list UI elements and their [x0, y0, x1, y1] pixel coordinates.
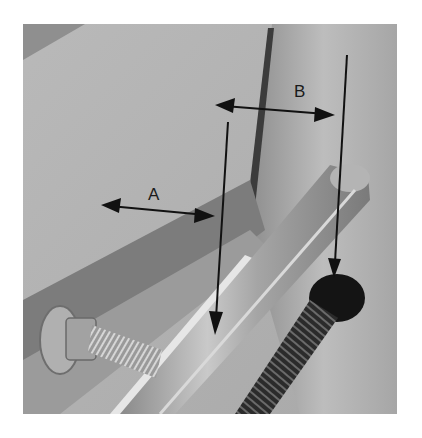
- label-b: B: [294, 82, 305, 101]
- pointer-arrow-bolt: [328, 55, 347, 278]
- pointer-arrow-rod: [209, 122, 228, 335]
- photo: A B: [23, 24, 397, 414]
- label-a: A: [148, 185, 160, 204]
- measurement-arrow-b: [215, 98, 335, 122]
